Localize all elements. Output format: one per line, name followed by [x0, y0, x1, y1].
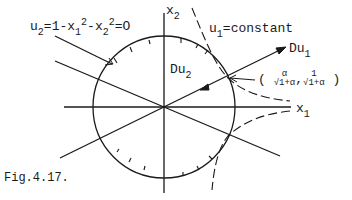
u2-pointer-arrow — [55, 36, 112, 64]
figure-caption: Fig.4.17. — [4, 172, 69, 184]
du1-arrowhead-icon — [276, 47, 286, 54]
point-y-fraction: 1√1+α — [303, 70, 325, 89]
u1-constant-label: u1=constant — [209, 22, 293, 35]
constraint-u2-label: u2=1-x12-x22=O — [30, 20, 130, 33]
second-line — [55, 61, 280, 156]
point-x-fraction: α√1+α — [274, 70, 296, 89]
tangent-point-label: ( α√1+α,1√1+α ) — [258, 70, 340, 89]
du2-label: Du2 — [170, 63, 192, 76]
axis-x2-label: x2 — [166, 4, 180, 17]
du2-arrowhead-icon — [200, 84, 209, 90]
axis-x1-label: x1 — [296, 102, 310, 115]
du1-label: Du1 — [289, 42, 311, 55]
